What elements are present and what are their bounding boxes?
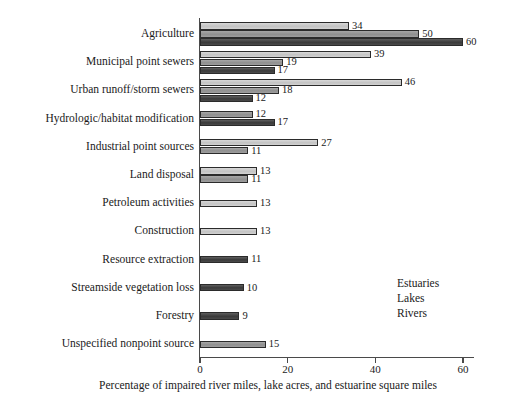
bar-rivers-agriculture [200, 38, 463, 45]
bar-rivers-urban-runoff-storm-sewers [200, 95, 253, 102]
category-label-construction: Construction [135, 225, 194, 237]
bar-value-label: 17 [278, 117, 289, 128]
category-label-municipal-point-sewers: Municipal point sewers [86, 56, 194, 68]
bar-rivers-municipal-point-sewers [200, 67, 275, 74]
x-axis-line [199, 357, 474, 358]
bar-value-label: 10 [247, 283, 258, 294]
bar-lakes-hydrologic-habitat-modification [200, 111, 253, 118]
bar-value-label: 17 [278, 65, 289, 76]
bar-value-label: 12 [256, 93, 267, 104]
bar-value-label: 27 [321, 138, 332, 149]
chart-legend: Estuaries Lakes Rivers [397, 277, 439, 322]
bar-value-label: 18 [282, 85, 293, 96]
bar-estuaries-agriculture [200, 22, 349, 29]
category-label-resource-extraction: Resource extraction [102, 254, 194, 266]
bar-value-label: 9 [242, 311, 247, 322]
category-label-streamside-vegetation-loss: Streamside vegetation loss [71, 282, 194, 294]
bar-value-label: 39 [374, 49, 385, 60]
legend-item-rivers: Rivers [397, 307, 439, 321]
bar-value-label: 46 [405, 77, 416, 88]
bar-lakes-municipal-point-sewers [200, 59, 283, 66]
legend-item-estuaries: Estuaries [397, 277, 439, 291]
bar-rivers-streamside-vegetation-loss [200, 284, 244, 291]
legend-item-lakes: Lakes [397, 292, 439, 306]
bar-value-label: 11 [251, 174, 261, 185]
category-label-urban-runoff-storm-sewers: Urban runoff/storm sewers [70, 84, 194, 96]
bar-rivers-hydrologic-habitat-modification [200, 119, 275, 126]
bar-chart: 0204060 Agriculture345060Municipal point… [0, 0, 506, 405]
x-tick-label-60: 60 [458, 363, 469, 375]
category-label-hydrologic-habitat-modification: Hydrologic/habitat modification [45, 113, 194, 125]
category-label-unspecified-nonpoint-source: Unspecified nonpoint source [62, 338, 194, 350]
bar-lakes-urban-runoff-storm-sewers [200, 87, 279, 94]
bar-value-label: 13 [260, 198, 271, 209]
x-tick-label-0: 0 [197, 363, 203, 375]
category-label-industrial-point-sources: Industrial point sources [86, 141, 194, 153]
legend-label-lakes: Lakes [397, 293, 424, 305]
bar-value-label: 11 [251, 146, 261, 157]
bar-lakes-industrial-point-sources [200, 147, 248, 154]
bar-lakes-unspecified-nonpoint-source [200, 341, 266, 348]
category-label-land-disposal: Land disposal [130, 169, 194, 181]
bar-value-label: 60 [466, 37, 477, 48]
bar-value-label: 13 [260, 226, 271, 237]
x-tick-label-20: 20 [282, 363, 293, 375]
x-tick-label-40: 40 [370, 363, 381, 375]
bar-estuaries-land-disposal [200, 167, 257, 174]
bar-value-label: 11 [251, 254, 261, 265]
bar-estuaries-construction [200, 228, 257, 235]
bar-value-label: 15 [269, 339, 280, 350]
bar-value-label: 13 [260, 166, 271, 177]
category-label-forestry: Forestry [156, 310, 194, 322]
x-axis-label-text: Percentage of impaired river miles, lake… [69, 379, 437, 391]
bar-lakes-agriculture [200, 30, 419, 37]
bar-estuaries-urban-runoff-storm-sewers [200, 79, 402, 86]
legend-label-estuaries: Estuaries [397, 278, 439, 290]
legend-label-rivers: Rivers [397, 308, 427, 320]
bar-rivers-forestry [200, 312, 239, 319]
bar-lakes-land-disposal [200, 175, 248, 182]
bar-rivers-resource-extraction [200, 256, 248, 263]
category-label-agriculture: Agriculture [141, 28, 194, 40]
category-label-petroleum-activities: Petroleum activities [102, 197, 194, 209]
x-axis-label: Percentage of impaired river miles, lake… [0, 379, 506, 391]
bar-estuaries-petroleum-activities [200, 200, 257, 207]
